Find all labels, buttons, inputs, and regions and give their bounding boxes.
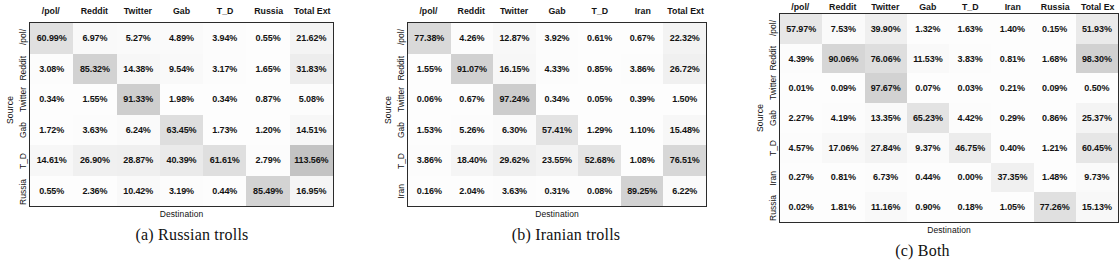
heatmap-cell-b-1-0: 1.55%: [408, 54, 451, 85]
heatmap-cell-c-5-0: 0.27%: [780, 163, 822, 193]
heatmap-cell-c-3-1: 4.19%: [822, 103, 864, 133]
heatmap-cell-c-1-3: 11.53%: [907, 44, 949, 74]
row-label-c-4: T_D: [766, 133, 779, 163]
heatmap-cell-a-2-5: 0.87%: [246, 84, 289, 115]
grid-a: /pol/RedditTwitterGabT_DRussiaTotal Ext …: [29, 0, 334, 219]
heatmap-row: 0.06%0.67%97.24%0.34%0.05%0.39%1.50%: [408, 84, 706, 115]
column-header-a-3: Gab: [160, 6, 204, 16]
heatmap-cell-c-5-6: 1.48%: [1034, 163, 1076, 193]
heatmap-cell-b-1-5: 3.86%: [621, 54, 664, 85]
heatmap-cell-a-5-4: 0.44%: [203, 176, 246, 207]
heatmap-cell-a-5-1: 2.36%: [73, 176, 116, 207]
column-header-c-2: Twitter: [864, 2, 907, 12]
heatmap-cell-a-0-0: 60.99%: [30, 23, 73, 54]
heatmap-cell-a-2-6: 5.08%: [290, 84, 333, 115]
heatmap-cell-a-4-1: 26.90%: [73, 145, 116, 176]
heatmap-cell-a-3-6: 14.51%: [290, 115, 333, 146]
heatmap-cell-b-2-5: 0.39%: [621, 84, 664, 115]
y-ticks-c: /pol/RedditTwitterGabT_DIranRussia: [766, 13, 779, 223]
heatmap-cell-a-0-3: 4.89%: [160, 23, 203, 54]
heatmap-row: 0.27%0.81%6.73%0.44%0.00%37.35%1.48%9.73…: [780, 163, 1118, 193]
row-label-text: Iran: [769, 171, 778, 186]
heatmap-cell-c-2-7: 0.50%: [1076, 73, 1118, 103]
column-header-b-5: Iran: [621, 6, 664, 16]
column-header-a-2: Twitter: [116, 6, 160, 16]
heatmap-cell-c-0-6: 0.15%: [1034, 14, 1076, 44]
column-header-b-1: Reddit: [450, 6, 493, 16]
heatmap-cell-c-3-4: 4.42%: [949, 103, 991, 133]
heatmap-row: 1.55%91.07%16.15%4.33%0.85%3.86%26.72%: [408, 54, 706, 85]
column-header-c-7: Total Ex: [1077, 2, 1119, 12]
heatmap-cell-b-1-3: 4.33%: [536, 54, 579, 85]
heatmap-cell-a-1-5: 1.65%: [246, 54, 289, 85]
heatmap-cell-b-0-1: 4.26%: [451, 23, 494, 54]
row-label-text: /pol/: [769, 20, 778, 36]
row-label-text: /pol/: [19, 29, 28, 45]
heatmap-row: 0.01%0.09%97.67%0.07%0.03%0.21%0.09%0.50…: [780, 73, 1118, 103]
grid-c: /pol/RedditTwitterGabT_DIranRussiaTotal …: [779, 0, 1119, 235]
heatmap-cell-b-2-1: 0.67%: [451, 84, 494, 115]
y-ticks-a: /pol/RedditTwitterGabT_DRussia: [16, 22, 29, 207]
heatmap-cell-c-6-7: 15.13%: [1076, 192, 1118, 222]
heatmap-cell-b-5-3: 0.31%: [536, 176, 579, 207]
heatmap-cell-c-3-2: 13.35%: [865, 103, 907, 133]
heatmap-row: 14.61%26.90%28.87%40.39%61.61%2.79%113.5…: [30, 145, 333, 176]
row-label-text: T_D: [397, 153, 406, 169]
heatmap-cell-c-4-3: 9.37%: [907, 133, 949, 163]
heatmap-cell-c-4-1: 17.06%: [822, 133, 864, 163]
heatmap-cell-b-4-6: 76.51%: [663, 145, 706, 176]
plot-b: Source /pol/RedditTwitterGabT_DIran /pol…: [382, 0, 754, 219]
heatmap-cell-b-0-4: 0.61%: [578, 23, 621, 54]
row-label-c-6: Russia: [766, 193, 779, 223]
heatmap-cell-c-0-3: 1.32%: [907, 14, 949, 44]
heatmap-cell-c-1-4: 3.83%: [949, 44, 991, 74]
row-label-c-3: Gab: [766, 103, 779, 133]
row-label-text: Twitter: [769, 75, 778, 100]
heatmap-cell-c-0-4: 1.63%: [949, 14, 991, 44]
heatmap-cell-c-3-6: 0.86%: [1034, 103, 1076, 133]
heatmap-cell-a-3-3: 63.45%: [160, 115, 203, 146]
row-label-text: Twitter: [19, 87, 28, 112]
heatmap-cell-a-4-5: 2.79%: [246, 145, 289, 176]
heatmap-cell-a-0-4: 3.94%: [203, 23, 246, 54]
heatmap-cell-b-4-1: 18.40%: [451, 145, 494, 176]
heatmap-cell-b-3-6: 15.48%: [663, 115, 706, 146]
y-tick-labels-c: /pol/RedditTwitterGabT_DIranRussia: [766, 0, 779, 235]
heatmap-row: 2.27%4.19%13.35%65.23%4.42%0.29%0.86%25.…: [780, 103, 1118, 133]
heatmap-cell-b-3-1: 5.26%: [451, 115, 494, 146]
heatmap-cell-c-2-2: 97.67%: [865, 73, 907, 103]
row-label-c-1: Reddit: [766, 43, 779, 73]
row-label-text: Russia: [19, 179, 28, 205]
heatmap-cell-b-0-0: 77.38%: [408, 23, 451, 54]
column-header-a-5: Russia: [247, 6, 291, 16]
y-ticks-b: /pol/RedditTwitterGabT_DIran: [394, 22, 407, 207]
heatmap-matrix-a: 60.99%6.97%5.27%4.89%3.94%0.55%21.62%3.0…: [29, 22, 334, 207]
heatmap-cell-b-3-2: 6.30%: [493, 115, 536, 146]
panel-both: Source /pol/RedditTwitterGabT_DIranRussi…: [754, 0, 1119, 274]
heatmap-cell-a-1-6: 31.83%: [290, 54, 333, 85]
row-label-text: /pol/: [397, 29, 406, 45]
heatmap-cell-c-5-1: 0.81%: [822, 163, 864, 193]
row-label-text: T_D: [769, 140, 778, 156]
heatmap-cell-c-0-0: 57.97%: [780, 14, 822, 44]
column-header-b-6: Total Ext: [664, 6, 707, 16]
heatmap-row: 1.72%3.63%6.24%63.45%1.73%1.20%14.51%: [30, 115, 333, 146]
heatmap-cell-b-5-0: 0.16%: [408, 176, 451, 207]
row-label-text: T_D: [19, 153, 28, 169]
heatmap-cell-b-3-4: 1.29%: [578, 115, 621, 146]
row-label-c-5: Iran: [766, 163, 779, 193]
heatmap-cell-c-0-7: 51.93%: [1076, 14, 1118, 44]
column-header-c-6: Russia: [1034, 2, 1077, 12]
heatmap-cell-b-0-6: 22.32%: [663, 23, 706, 54]
heatmap-cell-c-0-5: 1.40%: [991, 14, 1033, 44]
heatmap-cell-c-5-5: 37.35%: [991, 163, 1033, 193]
row-label-text: Gab: [19, 122, 28, 138]
heatmap-cell-b-2-3: 0.34%: [536, 84, 579, 115]
heatmap-cell-a-3-2: 6.24%: [117, 115, 160, 146]
heatmap-cell-c-6-5: 1.05%: [991, 192, 1033, 222]
y-axis-title-b: Source: [382, 0, 394, 219]
heatmap-row: 60.99%6.97%5.27%4.89%3.94%0.55%21.62%: [30, 23, 333, 54]
heatmap-row: 4.39%90.06%76.06%11.53%3.83%0.81%1.68%98…: [780, 44, 1118, 74]
grid-b: /pol/RedditTwitterGabT_DIranTotal Ext 77…: [407, 0, 707, 219]
x-axis-title-b: Destination: [407, 207, 707, 219]
